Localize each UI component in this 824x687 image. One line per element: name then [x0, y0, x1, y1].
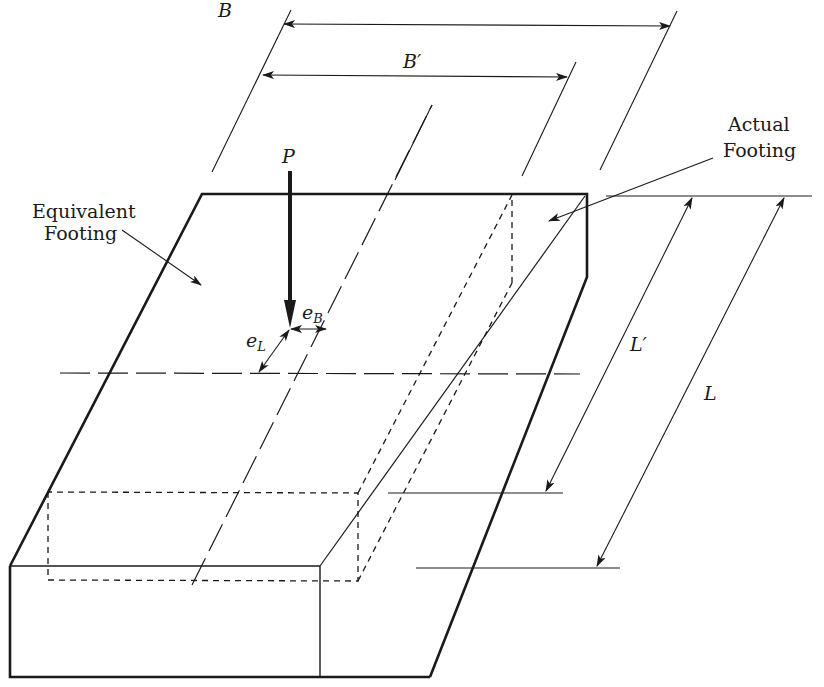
- label-eL-sub: L: [256, 339, 266, 354]
- callout-equivalent-leader: [122, 230, 201, 285]
- label-eB-sub: B: [312, 311, 323, 326]
- actual-footing-outline: [10, 194, 587, 677]
- label-L-prime: L′: [629, 333, 648, 355]
- dimension-line-L-prime: [546, 198, 692, 491]
- dimension-L: [416, 196, 812, 568]
- eccentricity-arrows: [259, 329, 326, 372]
- extension-line-B-left: [212, 10, 291, 172]
- centerline-transverse: [60, 373, 580, 374]
- label-eB-base: e: [302, 301, 313, 323]
- dimension-B-prime: [263, 62, 576, 180]
- footing-top-back-edge: [10, 194, 587, 677]
- equivalent-footing-front-rect: [48, 492, 358, 581]
- equivalent-footing-outline: [48, 195, 512, 581]
- dimension-line-B: [284, 24, 670, 26]
- label-P: P: [281, 145, 296, 167]
- label-B-prime: B′: [402, 50, 422, 72]
- callout-equivalent-line1: Equivalent: [32, 200, 136, 222]
- extension-line-Bprime-left: [395, 105, 432, 180]
- callout-actual-leader: [549, 158, 713, 221]
- label-B: B: [217, 0, 232, 21]
- footing-diagram: B B′ L L′ P eB eL Equivalent Footing: [0, 0, 824, 687]
- footing-front-face: [10, 566, 430, 677]
- label-eB: eB: [302, 301, 323, 326]
- label-eL-base: e: [246, 329, 257, 351]
- dimension-line-B-prime: [263, 75, 567, 77]
- label-L: L: [703, 382, 717, 404]
- equivalent-footing-right-diagonal: [358, 283, 512, 581]
- label-eL: eL: [246, 329, 266, 354]
- load-arrow-head: [284, 300, 296, 328]
- extension-line-Bprime-right: [522, 62, 576, 176]
- centerlines: [60, 105, 580, 585]
- callout-equivalent-line2: Footing: [44, 222, 117, 244]
- dimension-line-L: [597, 198, 784, 566]
- callout-actual-line1: Actual: [727, 113, 790, 135]
- extension-line-B-right: [600, 11, 677, 170]
- equivalent-footing-inner-diagonal: [358, 195, 512, 493]
- callout-actual-line2: Footing: [723, 139, 796, 161]
